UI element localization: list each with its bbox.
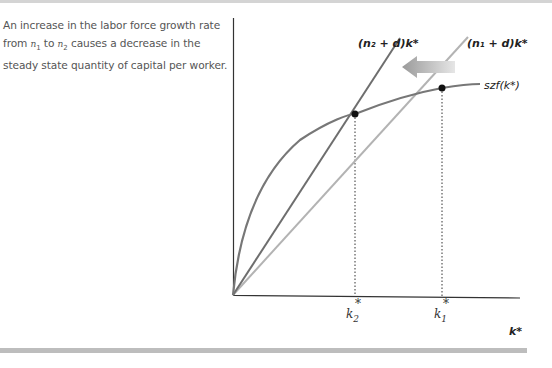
- bottom-divider: [0, 348, 527, 353]
- label-n2-line: (n₂ + d)k*: [358, 37, 419, 50]
- tick-k1-star: *: [443, 297, 449, 311]
- line-n1: [233, 37, 468, 295]
- tick-k2-star: *: [355, 297, 361, 311]
- line-n2: [233, 38, 400, 295]
- equilibrium-point-2: [352, 111, 359, 118]
- x-axis: [233, 296, 520, 299]
- label-curve: szf(k*): [484, 79, 520, 92]
- x-axis-label: k*: [509, 325, 522, 338]
- equilibrium-point-1: [439, 85, 446, 92]
- label-n1-line: (n₁ + d)k*: [467, 37, 528, 50]
- solow-chart: (n₂ + d)k* (n₁ + d)k* szf(k*) k2 * k1 * …: [0, 0, 552, 368]
